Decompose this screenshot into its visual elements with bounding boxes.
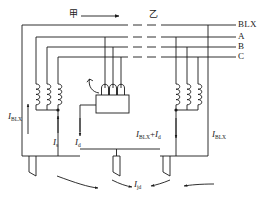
device-leads [105, 37, 121, 88]
current-label-right-sum: IBLX+Id [136, 130, 161, 139]
current-subscript: d [78, 142, 81, 148]
current-subscript: BLX [215, 134, 226, 140]
ground-symbol-3 [163, 156, 170, 176]
figure-canvas: 甲 乙 BLX A B C IBLX Is Id IBLX+Id IBLX Ij… [0, 0, 257, 200]
station-jia-label: 甲 [69, 10, 78, 19]
current-label-left-sheath: IBLX [8, 112, 22, 121]
schematic-drawing [0, 0, 257, 200]
ground-flow-arrow-2 [112, 180, 132, 187]
current-subscript-2: d [158, 134, 161, 140]
ground-2-stub [80, 149, 160, 156]
ground-flow-arrow-1 [57, 176, 98, 188]
ground-symbol-1 [29, 156, 36, 176]
current-subscript: BLX [139, 134, 150, 140]
bus-label-a: A [238, 32, 245, 41]
current-label-right-sheath: IBLX [212, 130, 226, 139]
device-output-lead [80, 105, 96, 132]
ground-flow-arrow-3 [151, 180, 170, 186]
current-subscript: jd [137, 184, 141, 190]
device-box [96, 95, 129, 113]
current-label-left-s: Is [53, 138, 58, 147]
bus-label-c: C [238, 52, 244, 61]
current-subscript: s [56, 142, 58, 148]
device-hook-icon [87, 79, 99, 93]
ground-flow-arrow-4 [184, 184, 214, 186]
left-phase-drops [36, 37, 58, 84]
left-coil-group [36, 84, 62, 110]
current-subscript: BLX [11, 116, 22, 122]
current-label-ground: Ijd [134, 180, 141, 189]
right-phase-drops [176, 37, 198, 84]
ground-symbol-2 [113, 156, 120, 176]
current-label-left-d: Id [75, 138, 81, 147]
bus-label-blx: BLX [238, 20, 257, 29]
station-yi-label: 乙 [149, 10, 158, 19]
right-coil-group [176, 84, 202, 110]
bus-right-tails [228, 25, 236, 57]
bus-label-b: B [238, 42, 244, 51]
